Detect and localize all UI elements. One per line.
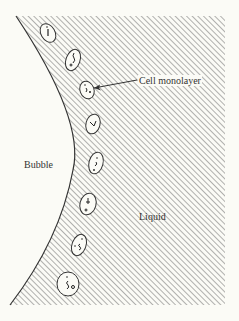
bubble-label: Bubble — [24, 159, 53, 170]
liquid-label: Liquid — [139, 211, 166, 222]
cell — [57, 272, 79, 296]
cell-monolayer-label: Cell monolayer — [138, 75, 202, 86]
